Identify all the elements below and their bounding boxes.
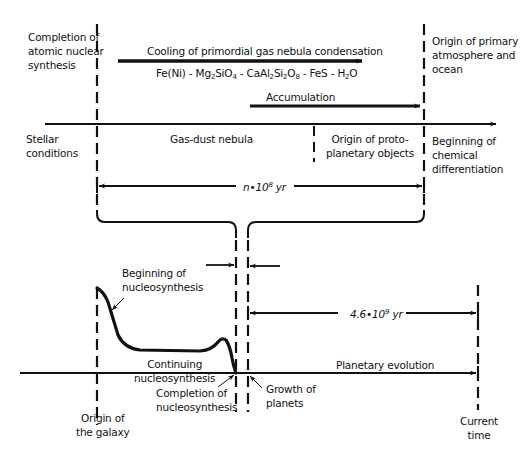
funnel-left: [97, 210, 236, 238]
funnel-right: [248, 210, 424, 238]
label-proto-planetary: Origin of proto- planetary objects: [326, 132, 414, 160]
label-completion-nucleosynthesis: Completion of nucleosynthesis: [156, 386, 237, 414]
pointer-begin-nucleo: [112, 298, 124, 310]
label-stellar-conditions: Stellar conditions: [26, 132, 78, 160]
label-planetary-evolution: Planetary evolution: [336, 358, 434, 372]
pointer-growth: [250, 376, 262, 388]
label-beginning-nucleosynthesis: Beginning of nucleosynthesis: [122, 266, 203, 294]
label-origin-galaxy: Origin of the galaxy: [76, 411, 129, 439]
label-duration-lower: 4.6•109 yr: [350, 305, 403, 321]
cosmochemical-timeline-diagram: Completion of atomic nuclear synthesis O…: [0, 0, 522, 463]
label-gas-dust-nebula: Gas-dust nebula: [170, 132, 253, 146]
label-continuing-nucleosynthesis: Continuing nucleosynthesis: [134, 357, 215, 385]
label-formula: Fe(Ni) - Mg2SiO4 - CaAl2Si2O8 - FeS - H2…: [156, 66, 357, 84]
label-growth-planets: Growth of planets: [266, 382, 316, 410]
label-completion-atomic: Completion of atomic nuclear synthesis: [28, 30, 104, 72]
label-chemical-differentiation: Beginning of chemical differentiation: [432, 134, 503, 176]
label-duration-upper: n•108 yr: [243, 178, 286, 194]
label-accumulation: Accumulation: [266, 90, 335, 104]
label-origin-atmosphere: Origin of primary atmosphere and ocean: [432, 34, 518, 76]
label-current-time: Current time: [460, 414, 498, 442]
label-cooling: Cooling of primordial gas nebula condens…: [147, 44, 383, 58]
